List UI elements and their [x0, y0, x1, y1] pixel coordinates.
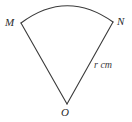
vertex-label-n: N	[117, 16, 124, 27]
vertex-label-m: M	[5, 17, 14, 28]
radius-measure-label: r cm	[94, 60, 112, 70]
sector-drawing	[0, 0, 132, 122]
vertex-label-o: O	[61, 107, 69, 118]
arc-mn	[21, 6, 113, 23]
radius-line-om	[21, 23, 67, 104]
sector-figure: M N O r cm	[0, 0, 132, 122]
